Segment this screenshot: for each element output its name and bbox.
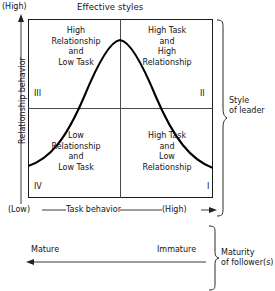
quadrant-1-number: I	[207, 182, 209, 191]
quadrant-3-text: High Relationship and Low Task	[34, 26, 118, 68]
maturity-axis-arrow	[26, 256, 206, 268]
quadrant-1-line4: Relationship	[124, 163, 210, 174]
quadrant-4-line3: and	[34, 152, 118, 163]
quadrant-4-line1: Low	[34, 131, 118, 142]
quadrant-3-line3: and	[34, 47, 118, 58]
quadrant-4-line2: Relationship	[34, 142, 118, 153]
quadrant-3-line4: Low Task	[34, 58, 118, 69]
x-axis-low-label: (Low)	[8, 205, 30, 214]
style-of-leader-line2: of leader	[229, 106, 265, 116]
quadrant-2-text: High Task and High Relationship	[124, 26, 210, 68]
quadrant-1-line2: and	[124, 142, 210, 153]
quadrant-4-text: Low Relationship and Low Task	[34, 131, 118, 173]
style-of-leader-line1: Style	[229, 96, 265, 106]
x-axis-label: Task behavior	[66, 205, 121, 214]
x-axis-arrow	[8, 203, 248, 217]
quadrant-1-line1: High Task	[124, 131, 210, 142]
quadrant-2-line2: and	[124, 37, 210, 48]
y-axis-label: Relationship behavior	[18, 41, 27, 161]
diagram-title: Effective styles	[77, 2, 143, 12]
y-axis-high-label: (High)	[2, 2, 27, 11]
quadrant-4-number: IV	[34, 182, 42, 191]
situational-leadership-diagram: Effective styles (High) Relationship beh…	[0, 0, 275, 291]
x-axis-high-label: (High)	[162, 205, 187, 214]
quadrant-2-line1: High Task	[124, 26, 210, 37]
maturity-line1: Maturity	[221, 248, 273, 258]
quadrant-1-text: High Task and Low Relationship	[124, 131, 210, 173]
quadrant-4-line4: Low Task	[34, 163, 118, 174]
maturity-of-followers-label: Maturity of follower(s)	[221, 248, 273, 268]
quadrant-1-line3: Low	[124, 152, 210, 163]
quadrant-2-line3: High	[124, 47, 210, 58]
maturity-immature-label: Immature	[157, 245, 196, 254]
quadrant-3-line2: Relationship	[34, 37, 118, 48]
quadrant-3-line1: High	[34, 26, 118, 37]
quadrant-2-line4: Relationship	[124, 58, 210, 69]
maturity-of-followers-brace	[206, 225, 220, 291]
quadrant-3-number: III	[34, 89, 41, 98]
style-of-leader-label: Style of leader	[229, 96, 265, 116]
maturity-mature-label: Mature	[31, 245, 59, 254]
maturity-line2: of follower(s)	[221, 258, 273, 268]
style-of-leader-brace	[214, 19, 228, 217]
quadrant-2-number: II	[200, 89, 205, 98]
